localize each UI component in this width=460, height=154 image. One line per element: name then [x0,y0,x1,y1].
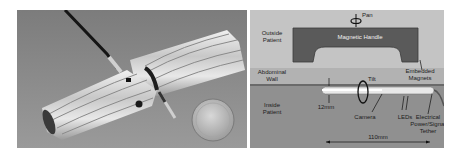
label-embedded-magnets: Embedded Magnets [400,68,440,82]
label-camera: Camera [348,114,382,121]
label-tilt: Tilt [368,76,376,83]
label-magnetic-handle: Magnetic Handle [310,34,410,41]
label-pan: Pan [362,12,373,19]
label-inside-patient: Inside Patient [254,102,290,116]
schematic-diagram: Pan Outside Patient Magnetic Handle Abdo… [250,10,444,148]
device-photo-illustration [17,10,247,148]
label-abdominal-wall: Abdominal Wall [252,69,292,83]
label-diameter: 12mm [312,104,340,111]
coin [192,99,234,141]
label-tether: Electrical Power/Signal Tether [408,114,444,135]
label-length: 110mm [358,134,398,141]
label-outside-patient: Outside Patient [254,30,290,44]
device-photo [17,10,247,148]
